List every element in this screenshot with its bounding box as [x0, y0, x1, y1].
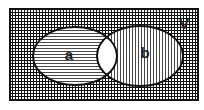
universe-label: V: [179, 15, 189, 32]
set-a-label: a: [65, 46, 74, 63]
venn-diagram: a b V: [0, 0, 204, 110]
set-b-label: b: [140, 44, 149, 61]
